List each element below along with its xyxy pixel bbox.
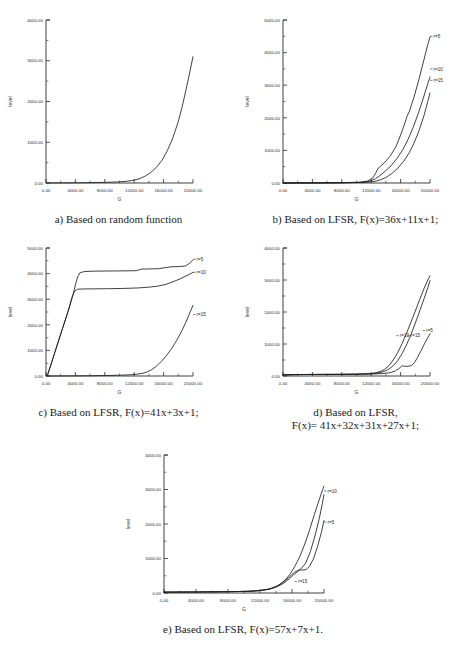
figure-sheet: 0.001000.002000.003000.004000.000.004000… <box>0 0 474 657</box>
y-tick-label: 5000.00 <box>27 246 43 251</box>
y-axis-title: level <box>244 96 250 106</box>
x-tick-label: 12000.00 <box>251 598 270 603</box>
y-tick-label: 4000.00 <box>264 246 280 251</box>
series-curve <box>46 305 193 376</box>
y-tick-label: 1000.00 <box>264 342 280 347</box>
series-label: r=5 <box>426 328 433 333</box>
series-curve <box>164 495 324 592</box>
y-tick-label: 1000.00 <box>264 148 280 153</box>
series-label: r=15 <box>411 333 421 338</box>
x-axis-title: G <box>355 196 359 202</box>
panel-e-caption: e) Based on LFSR, F(x)=57x+7x+1. <box>118 623 368 636</box>
x-tick-label: 4000.00 <box>67 188 83 193</box>
series-curve <box>283 334 430 375</box>
panel-d: 0.001000.002000.003000.004000.000.004000… <box>237 236 474 432</box>
panel-b-caption: b) Based on LFSR, F(x)=36x+11x+1; <box>237 213 474 226</box>
series-curve <box>164 486 324 592</box>
y-axis-title: level <box>125 519 131 529</box>
y-tick-label: 3000.00 <box>27 297 43 302</box>
y-tick-label: 4000.00 <box>27 18 43 23</box>
y-tick-label: 0.00 <box>34 374 43 379</box>
series-label: r=15 <box>434 78 444 83</box>
y-tick-label: 5000.00 <box>264 18 280 23</box>
x-tick-label: 12000.00 <box>362 188 381 193</box>
chart-a: 0.001000.002000.003000.004000.000.004000… <box>0 8 237 213</box>
y-tick-label: 1000.00 <box>145 556 161 561</box>
panel-e-plot: 0.001000.002000.003000.004000.000.004000… <box>118 443 368 623</box>
chart-c: 0.001000.002000.003000.004000.005000.000… <box>0 236 237 406</box>
y-tick-label: 2000.00 <box>27 99 43 104</box>
y-axis-title: level <box>244 307 250 317</box>
x-tick-label: 20000.00 <box>184 188 203 193</box>
y-tick-label: 1000.00 <box>27 348 43 353</box>
series-label: r=15 <box>298 579 308 584</box>
chart-d: 0.001000.002000.003000.004000.000.004000… <box>237 236 474 406</box>
axis-frame <box>283 20 430 183</box>
x-tick-label: 0.00 <box>279 381 288 386</box>
x-axis-title: G <box>355 389 359 395</box>
series-curve <box>283 276 430 375</box>
axis-frame <box>164 455 324 593</box>
series-label: r=5 <box>197 257 204 262</box>
panel-a-caption: a) Based on random function <box>0 213 237 226</box>
series-curve <box>46 57 193 183</box>
chart-e: 0.001000.002000.003000.004000.000.004000… <box>118 443 368 623</box>
x-tick-label: 8000.00 <box>97 188 113 193</box>
panel-c-caption: c) Based on LFSR, F(x)=41x+3x+1; <box>0 406 237 419</box>
y-tick-label: 0.00 <box>152 591 161 596</box>
series-curve <box>283 77 430 183</box>
panel-d-plot: 0.001000.002000.003000.004000.000.004000… <box>237 236 474 406</box>
y-tick-label: 2000.00 <box>27 323 43 328</box>
x-tick-label: 8000.00 <box>97 381 113 386</box>
x-tick-label: 20000.00 <box>421 381 440 386</box>
series-curve <box>283 281 430 375</box>
x-tick-label: 8000.00 <box>334 188 350 193</box>
chart-b: 0.001000.002000.003000.004000.005000.000… <box>237 8 474 213</box>
x-tick-label: 16000.00 <box>154 381 173 386</box>
series-label: r=5 <box>434 34 441 39</box>
series-curve <box>283 37 430 183</box>
x-axis-title: G <box>118 196 122 202</box>
y-tick-label: 4000.00 <box>264 50 280 55</box>
x-tick-label: 20000.00 <box>184 381 203 386</box>
x-tick-label: 16000.00 <box>154 188 173 193</box>
x-tick-label: 0.00 <box>160 598 169 603</box>
x-axis-title: G <box>242 606 246 612</box>
y-tick-label: 2000.00 <box>264 116 280 121</box>
x-tick-label: 4000.00 <box>188 598 204 603</box>
panel-e: 0.001000.002000.003000.004000.000.004000… <box>118 443 368 636</box>
series-label: r=5 <box>328 520 335 525</box>
panel-c: 0.001000.002000.003000.004000.005000.000… <box>0 236 237 419</box>
panel-b-plot: 0.001000.002000.003000.004000.005000.000… <box>237 8 474 213</box>
x-tick-label: 12000.00 <box>362 381 381 386</box>
panel-a-plot: 0.001000.002000.003000.004000.000.004000… <box>0 8 237 213</box>
y-tick-label: 0.00 <box>271 181 280 186</box>
series-label: r=15 <box>197 312 207 317</box>
x-tick-label: 12000.00 <box>125 381 144 386</box>
x-tick-label: 16000.00 <box>283 598 302 603</box>
x-tick-label: 12000.00 <box>125 188 144 193</box>
x-tick-label: 16000.00 <box>391 188 410 193</box>
y-tick-label: 3000.00 <box>264 83 280 88</box>
series-label: r=10 <box>328 489 338 494</box>
y-tick-label: 2000.00 <box>145 522 161 527</box>
series-label: r=10 <box>197 270 207 275</box>
y-tick-label: 3000.00 <box>27 58 43 63</box>
x-tick-label: 4000.00 <box>67 381 83 386</box>
y-tick-label: 1000.00 <box>27 140 43 145</box>
y-tick-label: 0.00 <box>271 374 280 379</box>
axis-frame <box>283 248 430 376</box>
x-axis-title: G <box>118 389 122 395</box>
y-tick-label: 3000.00 <box>264 278 280 283</box>
x-tick-label: 0.00 <box>42 188 51 193</box>
panel-d-caption: d) Based on LFSR, F(x)= 41x+32x+31x+27x+… <box>237 406 474 432</box>
y-axis-title: level <box>7 307 13 317</box>
series-curve <box>47 260 193 375</box>
y-tick-label: 4000.00 <box>27 271 43 276</box>
y-tick-label: 2000.00 <box>264 310 280 315</box>
x-tick-label: 0.00 <box>279 188 288 193</box>
axis-frame <box>46 20 193 183</box>
y-tick-label: 4000.00 <box>145 453 161 458</box>
panel-a: 0.001000.002000.003000.004000.000.004000… <box>0 8 237 226</box>
x-tick-label: 4000.00 <box>304 188 320 193</box>
